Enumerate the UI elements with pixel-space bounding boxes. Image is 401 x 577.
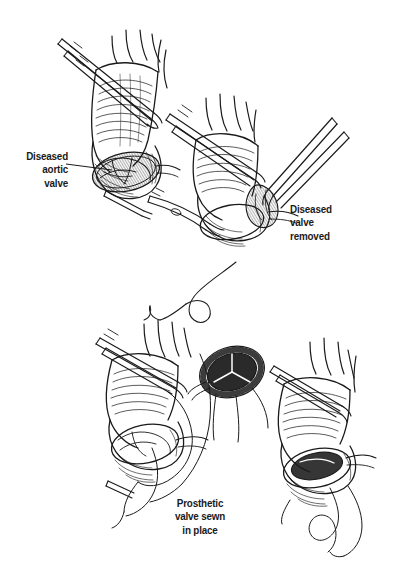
illustration-canvas	[0, 0, 401, 577]
medical-illustration-figure: Diseased aortic valve Diseased valve rem…	[0, 0, 401, 577]
